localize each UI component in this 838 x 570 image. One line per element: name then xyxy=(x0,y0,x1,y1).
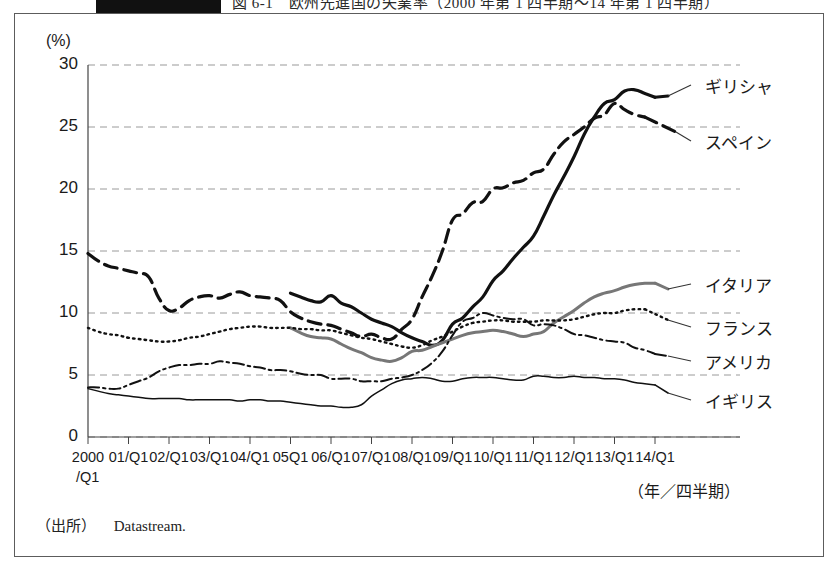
legend-leader-line xyxy=(655,96,668,97)
series-label-greece: ギリシャ xyxy=(705,73,773,98)
y-tick-label: 25 xyxy=(44,116,78,136)
y-tick-label: 10 xyxy=(44,302,78,322)
gridlines xyxy=(88,65,740,437)
y-tick-label: 30 xyxy=(44,54,78,74)
legend-leader-hook xyxy=(668,320,691,327)
y-tick-label: 0 xyxy=(44,426,78,446)
legend-leader-line xyxy=(655,354,668,356)
source-label: （出所） xyxy=(36,518,96,534)
source-note: （出所） Datastream. xyxy=(36,514,186,535)
x-tick-label-sub: /Q1 xyxy=(76,469,99,485)
legend-leader-line xyxy=(645,117,676,132)
y-tick-label: 15 xyxy=(44,240,78,260)
legend-leader-hook xyxy=(676,132,691,141)
series-paths xyxy=(88,89,655,407)
y-tick-label: 20 xyxy=(44,178,78,198)
legend-leader-line xyxy=(655,283,668,289)
series-line-greece xyxy=(291,89,656,345)
legend-leader-line xyxy=(655,385,668,393)
series-label-spain: スペイン xyxy=(705,129,772,154)
series-label-france: フランス xyxy=(705,315,773,340)
figure-page: 図 6-1 欧州先進国の失業率（2000 年第 1 四半期～14 年第 1 四半… xyxy=(0,0,838,570)
legend-leader-hook xyxy=(668,284,691,289)
x-tick-label: 14/Q1 xyxy=(626,449,684,465)
series-line-united-kingdom xyxy=(88,376,655,408)
x-tick-marks xyxy=(88,437,655,444)
legend-leader-line xyxy=(645,309,668,320)
series-line-united-states xyxy=(88,313,655,389)
series-label-italy: イタリア xyxy=(705,272,772,297)
legend-leader-hook xyxy=(668,356,691,361)
series-line-spain xyxy=(88,103,645,340)
source-value: Datastream. xyxy=(114,518,186,534)
series-label-united-kingdom: イギリス xyxy=(705,388,773,413)
series-label-united-states: アメリカ xyxy=(705,349,772,374)
y-tick-label: 5 xyxy=(44,364,78,384)
x-axis-title: （年／四半期） xyxy=(628,478,740,502)
legend-leader-hook xyxy=(668,85,691,96)
legend-leader-hook xyxy=(668,393,691,400)
